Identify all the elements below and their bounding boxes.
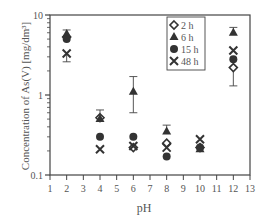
x-tick-label: 3: [81, 183, 86, 194]
x-tick-label: 8: [164, 183, 169, 194]
x-axis-label: pH: [137, 201, 152, 215]
x-tick-label: 9: [181, 183, 186, 194]
filled-circle-marker: [163, 153, 171, 161]
x-tick-label: 4: [98, 183, 103, 194]
filled-triangle-marker: [162, 126, 171, 134]
series-48h: [63, 46, 238, 153]
x-cross-marker: [96, 145, 104, 153]
x-tick-label: 12: [228, 183, 238, 194]
x-tick-label: 1: [48, 183, 53, 194]
filled-triangle-marker: [129, 87, 138, 95]
filled-circle-marker: [96, 133, 104, 141]
filled-triangle-marker: [229, 28, 238, 36]
filled-circle-marker: [170, 45, 178, 53]
scatter-chart: 123456789101112131010.1 2 h6 h15 h48 h p…: [0, 0, 269, 224]
x-cross-marker: [196, 135, 204, 143]
x-tick-label: 5: [114, 183, 119, 194]
data-points: [62, 27, 238, 160]
x-tick-label: 6: [131, 183, 136, 194]
plot-area-border: [50, 15, 250, 175]
filled-circle-marker: [129, 133, 137, 141]
x-cross-marker: [229, 46, 237, 54]
x-tick-label: 13: [245, 183, 255, 194]
x-tick-label: 7: [148, 183, 153, 194]
legend-label: 48 h: [181, 56, 199, 67]
legend-label: 6 h: [181, 32, 194, 43]
series-15h: [63, 35, 238, 160]
x-tick-label: 10: [195, 183, 205, 194]
x-tick-label: 11: [212, 183, 222, 194]
filled-circle-marker: [63, 35, 71, 43]
open-diamond-marker: [229, 64, 237, 72]
plot-frame: [50, 15, 250, 175]
legend-label: 2 h: [181, 20, 194, 31]
y-tick-label: 0.1: [31, 170, 44, 181]
filled-circle-marker: [229, 55, 237, 63]
x-tick-label: 2: [64, 183, 69, 194]
legend: 2 h6 h15 h48 h: [167, 17, 205, 70]
series-6h: [62, 27, 238, 152]
legend-label: 15 h: [181, 44, 199, 55]
filled-circle-marker: [196, 144, 204, 152]
y-axis-label: Concentration of As(V) [mg/dm³]: [19, 22, 32, 170]
series-2h: [63, 33, 238, 152]
y-tick-label: 10: [33, 10, 43, 21]
y-tick-label: 1: [38, 90, 43, 101]
